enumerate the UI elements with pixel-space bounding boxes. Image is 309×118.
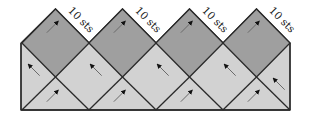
- knitting-diagram: 10 sts10 sts10 sts10 sts: [0, 0, 309, 118]
